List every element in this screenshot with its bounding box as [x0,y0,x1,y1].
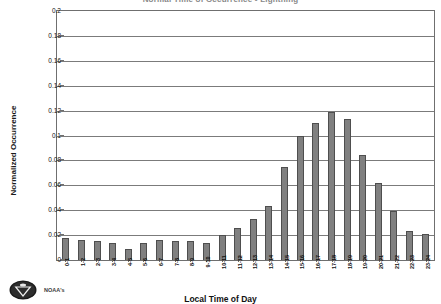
x-tick-label: 10-11 [222,255,228,269]
x-tick-label: 16-17 [316,255,322,269]
x-tick-slot: 17-18 [324,262,340,292]
x-tick-label: 22-23 [410,255,416,269]
bar[interactable] [78,240,85,260]
x-tick-slot: 3-4 [104,262,120,292]
bar-slot [402,11,418,260]
x-tick-label: 8-9 [190,258,196,266]
x-tick-label: 3-4 [112,258,118,266]
bar-slot [277,11,293,260]
x-tick-label: 7-8 [175,258,181,266]
bar-series [58,11,433,260]
x-tick-slot: 14-15 [277,262,293,292]
x-tick-label: 18-19 [348,255,354,269]
bar-slot [355,11,371,260]
y-tick-mark [60,234,64,235]
x-axis-ticks: 0-11-22-33-44-55-66-77-88-99-1010-1111-1… [57,262,434,292]
y-tick-label: 0.06 [25,181,61,188]
bar-slot [152,11,168,260]
x-tick-slot: 2-3 [88,262,104,292]
x-tick-slot: 23-24 [418,262,434,292]
x-tick-label: 14-15 [285,255,291,269]
y-tick-label: 0.1 [25,131,61,138]
bar-slot [371,11,387,260]
bar-slot [417,11,433,260]
bar-slot [324,11,340,260]
x-tick-label: 11-12 [238,255,244,269]
y-tick-mark [60,35,64,36]
bar[interactable] [359,155,366,260]
x-tick-label: 2-3 [96,258,102,266]
bar-slot [105,11,121,260]
x-tick-slot: 1-2 [73,262,89,292]
bar-slot [386,11,402,260]
x-tick-slot: 13-14 [261,262,277,292]
bar[interactable] [62,238,69,260]
x-tick-slot: 6-7 [151,262,167,292]
chart-title: Normal Time of Occurrence - Lightning [0,0,441,4]
y-tick-mark [60,159,64,160]
bar-slot [89,11,105,260]
y-tick-mark [60,10,64,11]
bar[interactable] [265,206,272,260]
bar-slot [230,11,246,260]
bar[interactable] [250,219,257,260]
bar[interactable] [328,112,335,260]
x-tick-label: 12-13 [253,255,259,269]
x-tick-label: 6-7 [159,258,165,266]
x-tick-slot: 11-12 [230,262,246,292]
x-tick-slot: 18-19 [340,262,356,292]
bar-slot [214,11,230,260]
footer-credit: NOAA's [44,287,65,293]
x-tick-slot: 12-13 [245,262,261,292]
x-tick-slot: 21-22 [387,262,403,292]
bar-slot [339,11,355,260]
x-tick-slot: 15-16 [293,262,309,292]
x-tick-slot: 5-6 [136,262,152,292]
x-tick-label: 9-10 [206,256,212,267]
x-tick-label: 0-1 [65,258,71,266]
x-tick-slot: 8-9 [183,262,199,292]
y-tick-mark [60,209,64,210]
x-tick-label: 1-2 [81,258,87,266]
bar[interactable] [344,119,351,260]
y-tick-mark [60,184,64,185]
bar[interactable] [156,240,163,260]
bar[interactable] [312,123,319,260]
bar[interactable] [297,136,304,261]
y-tick-label: 0.08 [25,156,61,163]
x-tick-slot: 10-11 [214,262,230,292]
x-axis-title: Local Time of Day [0,294,441,304]
bar-slot [261,11,277,260]
y-tick-label: 0.14 [25,81,61,88]
y-tick-label: 0.2 [25,7,61,14]
x-tick-slot: 19-20 [355,262,371,292]
y-axis-title: Normalized Occurrence [9,86,18,216]
y-tick-label: 0.16 [25,56,61,63]
bar[interactable] [375,183,382,260]
bar-slot [308,11,324,260]
noaa-logo [8,279,38,301]
y-tick-mark [60,85,64,86]
x-tick-label: 21-22 [395,255,401,269]
bar-slot [246,11,262,260]
x-tick-slot: 4-5 [120,262,136,292]
x-tick-label: 19-20 [363,255,369,269]
x-tick-label: 13-14 [269,255,275,269]
y-tick-mark [60,60,64,61]
y-tick-mark [60,110,64,111]
bar-slot [292,11,308,260]
bar-slot [167,11,183,260]
y-tick-label: 0.02 [25,231,61,238]
bar-slot [199,11,215,260]
bar[interactable] [281,167,288,260]
y-tick-mark [60,135,64,136]
bar-slot [74,11,90,260]
y-tick-label: 0.12 [25,106,61,113]
x-tick-label: 5-6 [143,258,149,266]
bar-slot [183,11,199,260]
y-tick-label: 0 [25,256,61,263]
bar-slot [136,11,152,260]
x-tick-label: 4-5 [128,258,134,266]
bar[interactable] [390,211,397,260]
